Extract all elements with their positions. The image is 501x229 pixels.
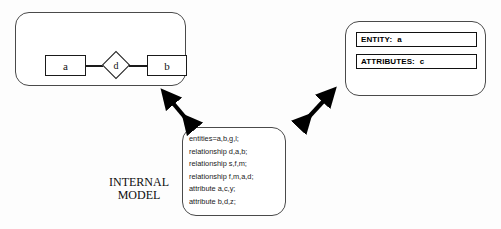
er-entity-b: b	[147, 55, 187, 76]
logical-row-attributes-label: ATTRIBUTES:	[361, 57, 415, 66]
logical-row-entity-value: a	[397, 35, 402, 44]
logical-model-panel: ENTITY: a ATTRIBUTES: c	[345, 21, 486, 96]
code-line: entities=a,b,g,l;	[189, 133, 281, 146]
logical-row-entity-label: ENTITY:	[361, 35, 392, 44]
double-arrow-icon-right	[298, 86, 342, 128]
code-line: relationship f,m,a,d;	[189, 171, 281, 184]
double-arrow-icon-left	[158, 88, 202, 128]
code-line: relationship s,f,m;	[189, 158, 281, 171]
er-entity-a: a	[45, 55, 86, 76]
er-relationship-label: d	[101, 50, 131, 80]
internal-model-caption: INTERNAL MODEL	[100, 176, 178, 202]
code-line: relationship d,a,b;	[189, 146, 281, 159]
conceptual-model-panel: a d b	[15, 12, 186, 86]
internal-model-code-block: entities=a,b,g,l; relationship d,a,b; re…	[189, 133, 281, 209]
logical-row-entity: ENTITY: a	[356, 32, 477, 47]
er-connector-right	[129, 65, 147, 67]
er-entity-b-label: b	[164, 60, 170, 72]
logical-row-attributes-value: c	[420, 57, 425, 66]
er-entity-a-label: a	[63, 60, 68, 72]
er-relationship-diamond: d	[101, 50, 131, 80]
internal-model-panel: entities=a,b,g,l; relationship d,a,b; re…	[182, 127, 286, 216]
code-line: attribute a,c,y;	[189, 183, 281, 196]
internal-model-caption-line2: MODEL	[100, 189, 178, 202]
logical-row-attributes: ATTRIBUTES: c	[356, 54, 477, 69]
code-line: attribute b,d,z;	[189, 196, 281, 209]
diagram-canvas: a d b ENTITY: a ATTRIBUTES: c entities=a…	[0, 0, 501, 229]
